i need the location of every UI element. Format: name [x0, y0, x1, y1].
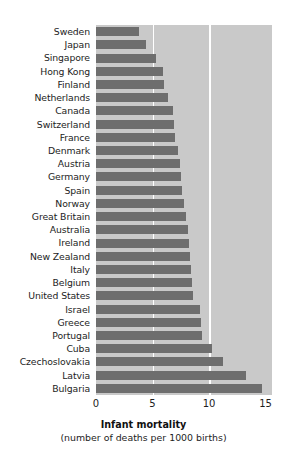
- bar-row: [96, 78, 272, 91]
- x-axis-tick-labels: 051015: [0, 398, 287, 414]
- category-label: Australia: [0, 223, 90, 236]
- bar: [96, 93, 168, 102]
- category-label: Norway: [0, 197, 90, 210]
- bar-row: [96, 104, 272, 117]
- category-label: Spain: [0, 184, 90, 197]
- bar: [96, 133, 175, 142]
- category-label: Cuba: [0, 342, 90, 355]
- category-label: Hong Kong: [0, 65, 90, 78]
- bar-row: [96, 197, 272, 210]
- category-label: Singapore: [0, 51, 90, 64]
- bar-row: [96, 250, 272, 263]
- category-label: Germany: [0, 170, 90, 183]
- category-label: Austria: [0, 157, 90, 170]
- bar: [96, 146, 178, 155]
- bar: [96, 40, 146, 49]
- bar-row: [96, 303, 272, 316]
- x-tick-label: 15: [251, 398, 281, 409]
- bar-row: [96, 316, 272, 329]
- bar-row: [96, 329, 272, 342]
- bar: [96, 344, 212, 353]
- bar-row: [96, 118, 272, 131]
- bar: [96, 371, 246, 380]
- x-tick-label: 10: [194, 398, 224, 409]
- x-axis-title: Infant mortality: [0, 419, 287, 430]
- x-tick-label: 5: [138, 398, 168, 409]
- category-label: Finland: [0, 78, 90, 91]
- category-label: Italy: [0, 263, 90, 276]
- bars-layer: [96, 25, 272, 395]
- category-label: Belgium: [0, 276, 90, 289]
- bar: [96, 186, 182, 195]
- bar: [96, 225, 188, 234]
- bar-row: [96, 210, 272, 223]
- bar: [96, 212, 186, 221]
- category-label: Denmark: [0, 144, 90, 157]
- bar-row: [96, 25, 272, 38]
- bar-row: [96, 38, 272, 51]
- bar-row: [96, 157, 272, 170]
- category-label: Great Britain: [0, 210, 90, 223]
- bar: [96, 80, 164, 89]
- category-label: Portugal: [0, 329, 90, 342]
- bar: [96, 357, 223, 366]
- category-label: Czechoslovakia: [0, 355, 90, 368]
- bar: [96, 239, 189, 248]
- bar: [96, 331, 202, 340]
- x-tick-label: 0: [81, 398, 111, 409]
- category-label: Sweden: [0, 25, 90, 38]
- category-label: Netherlands: [0, 91, 90, 104]
- bar: [96, 265, 191, 274]
- category-labels: SwedenJapanSingaporeHong KongFinlandNeth…: [0, 25, 90, 395]
- bar: [96, 384, 262, 393]
- bar: [96, 106, 173, 115]
- bar-row: [96, 65, 272, 78]
- bar-row: [96, 236, 272, 249]
- category-label: Greece: [0, 316, 90, 329]
- category-label: Switzerland: [0, 118, 90, 131]
- bar: [96, 278, 192, 287]
- bar-row: [96, 223, 272, 236]
- bar-row: [96, 369, 272, 382]
- bar: [96, 305, 200, 314]
- category-label: Japan: [0, 38, 90, 51]
- bar: [96, 199, 184, 208]
- bar-row: [96, 144, 272, 157]
- category-label: France: [0, 131, 90, 144]
- bar-row: [96, 51, 272, 64]
- category-label: New Zealand: [0, 250, 90, 263]
- bar-row: [96, 276, 272, 289]
- infant-mortality-bar-chart: SwedenJapanSingaporeHong KongFinlandNeth…: [0, 0, 287, 465]
- bar: [96, 318, 201, 327]
- bar-row: [96, 91, 272, 104]
- category-label: Bulgaria: [0, 382, 90, 395]
- category-label: Ireland: [0, 236, 90, 249]
- category-label: Canada: [0, 104, 90, 117]
- bar-row: [96, 342, 272, 355]
- bar: [96, 120, 174, 129]
- bar-row: [96, 170, 272, 183]
- bar-row: [96, 131, 272, 144]
- bar-row: [96, 263, 272, 276]
- bar-row: [96, 184, 272, 197]
- category-label: United States: [0, 289, 90, 302]
- bar-row: [96, 355, 272, 368]
- bar: [96, 291, 193, 300]
- bar: [96, 54, 156, 63]
- category-label: Latvia: [0, 369, 90, 382]
- bar: [96, 27, 139, 36]
- category-label: Israel: [0, 303, 90, 316]
- bar: [96, 159, 180, 168]
- bar: [96, 67, 163, 76]
- bar: [96, 252, 190, 261]
- x-axis-subtitle: (number of deaths per 1000 births): [0, 432, 287, 443]
- bar-row: [96, 289, 272, 302]
- bar-row: [96, 382, 272, 395]
- bar: [96, 172, 181, 181]
